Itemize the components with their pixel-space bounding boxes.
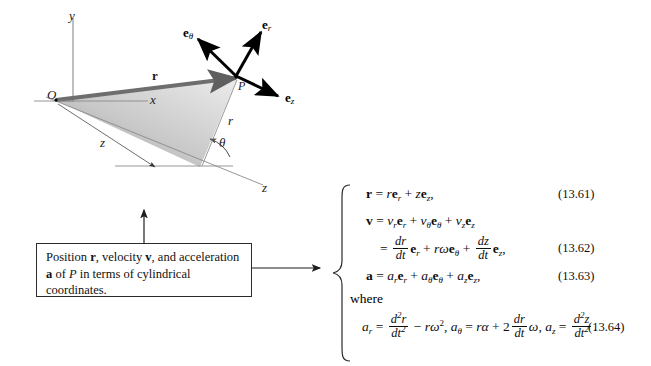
eq4-plus: + [492,319,500,334]
eq1-lhs: r [366,186,372,201]
fraction-d2r-dt2: d2r dt2 [389,313,409,340]
frac1-num: dr [393,235,408,248]
eq4-equals2: = [465,319,473,334]
eq3-a2-sub: θ [428,275,432,285]
frac2-z: z [484,234,489,248]
fraction-dr-dt-2: dr dt [512,313,527,340]
eq2b-e3: e [493,241,499,256]
eq2-equals: = [376,213,384,228]
caption-text-b: , velocity [96,250,146,264]
axis-label-y: y [69,8,75,24]
eq1-comma: , [430,186,433,201]
eq4-two: 2 [503,319,510,334]
e-r-sub: r [268,23,272,33]
caption-box: Position r, velocity v, and acceleration… [36,243,252,297]
eq4-ar: a [362,319,369,334]
eq2-lhs: v [366,213,373,228]
eq2b-e1-sub: r [416,248,420,258]
eq2b-plus2: + [463,241,471,256]
eq3-a1-sub: r [394,275,398,285]
eq2b-comma: , [502,241,505,256]
eq2-v1-sub: r [393,220,397,230]
eq1-sub-r: r [398,193,402,203]
eq2b-e3-sub: z [499,248,503,258]
equation-13-63: a = arer + aθeθ + azez, [366,268,480,284]
frac3-d: d [391,312,397,326]
eq4-az: a [545,319,552,334]
eq3-plus2: + [446,268,454,283]
eq4-equals3: = [559,319,567,334]
axis-label-z-projection: z [100,135,105,151]
equation-13-61: r = rer + zez, [366,186,434,202]
large-curly-brace [330,183,356,363]
equation-13-62-line-1: v = vrer + vθeθ + vzez [366,213,475,229]
frac4-num: dr [512,313,527,326]
axis-label-z-axis: z [262,180,267,196]
eq3-lhs: a [366,268,373,283]
eq3-e2-sub: θ [438,275,442,285]
unit-vector-e-r [236,32,261,76]
eq4-omega1-sup: 2 [439,318,444,328]
eq2-v2-sub: θ [427,220,431,230]
caption-text-e: in terms of cylindrical [77,267,191,281]
eq2-e3-sub: z [471,220,475,230]
eq3-a3: a [457,268,464,283]
cylindrical-coordinates-diagram: y O x z z r r θ P eθ er ez [0,0,330,215]
figure-page: y O x z z r r θ P eθ er ez Position r, v… [0,0,651,366]
e-r-base: e [262,17,268,32]
eq2-v3: v [456,213,462,228]
unit-vector-label-e-theta: eθ [183,25,193,41]
e-z-base: e [285,90,291,105]
position-vector-label-r: r [152,68,158,84]
eq2b-plus1: + [423,241,431,256]
eq1-e1: e [392,186,398,201]
equation-number-13-64: (13.64) [588,320,624,335]
angle-label-theta: θ [219,135,225,151]
caption-text-d: of [52,267,69,281]
frac4-den: dt [512,326,527,340]
caption-line-1: Position r, velocity v, and acceleration [46,249,243,266]
frac3-den: dt2 [389,326,409,340]
frac2-den: dt [476,248,491,262]
eq4-equals1: = [376,319,384,334]
eq3-e3-sub: z [474,275,478,285]
caption-line-2: a of P in terms of cylindrical [46,266,243,283]
frac5-sup: 2 [580,310,585,320]
eq3-comma: , [477,268,480,283]
point-label-P: P [238,79,245,94]
eq2-plus1: + [410,213,418,228]
eq2-e1-sub: r [403,220,407,230]
origin-label-O: O [47,87,56,103]
eq2b-omega: ω [439,241,449,256]
eq3-a3-sub: z [464,275,468,285]
frac4-t: t [521,326,524,340]
eq3-a1: a [387,268,394,283]
frac1-t: t [402,248,405,262]
equation-block: r = rer + zez, (13.61) v = vrer + vθeθ +… [330,183,651,363]
eq2b-equals: = [380,241,388,256]
fraction-dz-dt: dz dt [476,235,491,262]
frac3-sup: 2 [397,310,402,320]
frac2-t: t [485,248,488,262]
eq4-omega2: ω [529,319,539,334]
eq1-e2: e [421,186,427,201]
eq3-e3: e [468,268,474,283]
eq2-v3-sub: z [462,220,466,230]
equation-13-64: ar = d2r dt2 − rω2, aθ = rα + 2 dr dt ω,… [362,314,597,341]
caption-text-a: Position [46,250,90,264]
axis-label-x: x [150,92,156,108]
eq4-alpha: α [482,319,489,334]
radial-label-r: r [228,113,233,129]
unit-vector-e-theta [198,39,236,76]
eq4-comma2: , [538,319,541,334]
diagram-svg [0,0,330,215]
eq2-v2: v [421,213,427,228]
equation-number-13-62: (13.62) [558,241,594,256]
unit-vector-label-e-r: er [262,17,271,33]
eq1-sub-z: z [427,193,431,203]
caption-text-c: , and acceleration [152,250,240,264]
eq4-atheta-sub: θ [457,326,461,336]
frac2-num: dz [476,235,491,248]
frac1-r: r [401,234,406,248]
equation-13-62-line-2: = dr dt er + rωeθ + dz dt ez, [380,236,506,263]
